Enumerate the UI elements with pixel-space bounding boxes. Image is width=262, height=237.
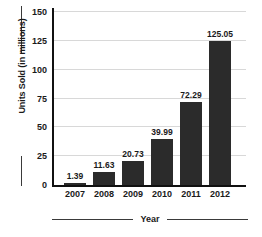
bar <box>64 183 86 185</box>
bar-chart: Units Sold (in millions) 025507510012515… <box>0 0 262 237</box>
x-tick-label: 2008 <box>94 189 114 199</box>
x-axis-rule-right <box>167 219 248 220</box>
bar-value-label: 72.29 <box>180 90 201 100</box>
bar <box>209 41 231 185</box>
bar-value-label: 20.73 <box>122 149 143 159</box>
bar <box>180 102 202 185</box>
x-axis-title-block: Year <box>52 212 248 226</box>
y-tick-label: 125 <box>32 36 47 46</box>
y-tick-label: 75 <box>37 94 47 104</box>
y-tick-label: 100 <box>32 65 47 75</box>
x-tick-label: 2010 <box>152 189 172 199</box>
gridline <box>54 11 246 12</box>
x-axis-rule-left <box>52 219 133 220</box>
y-axis-title-block: Units Sold (in millions) <box>14 6 30 186</box>
x-axis-title: Year <box>133 214 166 224</box>
y-axis-rule-bottom <box>21 156 22 186</box>
bar-value-label: 125.05 <box>207 29 233 39</box>
bar-value-label: 39.99 <box>151 127 172 137</box>
bar <box>122 161 144 185</box>
y-tick-label: 25 <box>37 151 47 161</box>
plot-area: 0255075100125150 1.39200711.63200820.732… <box>52 12 246 187</box>
bar-value-label: 1.39 <box>67 171 84 181</box>
x-axis-spine <box>52 185 246 187</box>
x-tick-label: 2012 <box>210 189 230 199</box>
x-tick-label: 2009 <box>123 189 143 199</box>
y-axis-title: Units Sold (in millions) <box>14 0 30 138</box>
y-tick-label: 0 <box>42 180 47 190</box>
bar <box>151 139 173 185</box>
x-tick-label: 2011 <box>181 189 201 199</box>
bar-value-label: 11.63 <box>94 160 115 170</box>
x-tick-label: 2007 <box>65 189 85 199</box>
y-tick-label: 50 <box>37 122 47 132</box>
y-tick-label: 150 <box>32 7 47 17</box>
bar <box>93 172 115 185</box>
